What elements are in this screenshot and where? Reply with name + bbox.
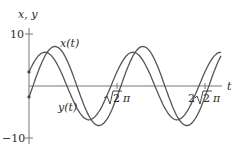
series-x-start-point	[27, 95, 30, 98]
radicand: 2	[203, 92, 210, 105]
y-axis-label: x, y	[18, 8, 38, 21]
x-tick-label-2sqrt2pi: 2 2 π	[188, 91, 221, 105]
series-y-start-point	[27, 70, 30, 73]
y-tick-label-minus-10: −10	[2, 132, 25, 145]
coefficient: 2	[188, 92, 195, 105]
x-axis-label: t	[227, 80, 232, 93]
series-y-label: y(t)	[57, 101, 77, 114]
chart: x, y t 10 −10 2 π 2 2 π x(t) y(t)	[0, 0, 238, 151]
pi-symbol: π	[122, 92, 131, 105]
y-tick-label-10: 10	[10, 28, 24, 41]
pi-symbol: π	[212, 92, 221, 105]
series-x-label: x(t)	[60, 37, 79, 50]
radicand: 2	[113, 92, 120, 105]
